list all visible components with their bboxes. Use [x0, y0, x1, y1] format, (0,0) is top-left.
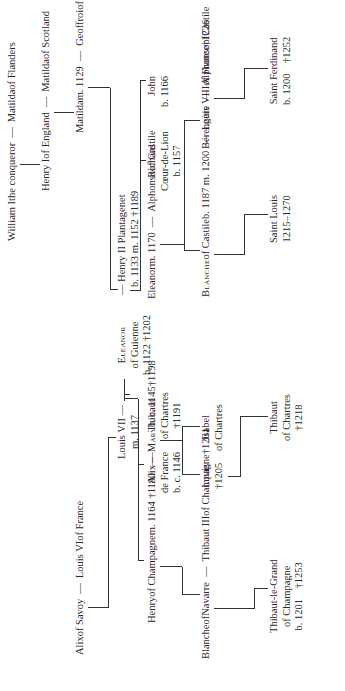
- descent-line: [140, 81, 141, 291]
- person-sub: m. 1137: [129, 405, 142, 459]
- descent-line: [244, 68, 268, 69]
- person-john: John b. 1166: [146, 76, 171, 107]
- person-dates: Navarre: [200, 582, 211, 616]
- person-name: Eleanor: [146, 266, 157, 299]
- person-sub: of Champagne: [281, 560, 294, 633]
- person-isabel-chartres: Isabel of Chartres: [200, 404, 225, 451]
- person-death: †1253: [293, 562, 304, 588]
- person-sub: of: [200, 36, 211, 45]
- person-name: Bérengère: [200, 106, 211, 149]
- person-name: Alphonso: [200, 45, 211, 86]
- descent-line: [130, 290, 140, 291]
- person-sub: of France: [74, 501, 85, 541]
- person-sub: the conqueror: [6, 143, 17, 201]
- person-name: Eleanor: [116, 315, 129, 375]
- descent-line: [182, 567, 183, 595]
- person-dates: Castile: [200, 7, 211, 36]
- person-sub: 1215–1270: [281, 195, 294, 243]
- person-dates: b. 1187 m. 1200: [200, 151, 211, 219]
- couple-alix-louisvi: Alixof Savoy — Louis VIof France: [74, 499, 87, 657]
- person-dates: †1198: [146, 360, 157, 386]
- couple-blanche-thibautiii: BlancheofNavarre — Thibaut IIIof Champag…: [200, 426, 213, 661]
- descent-line: [228, 476, 240, 477]
- person-name: John: [146, 76, 159, 107]
- descent-line: [240, 416, 268, 417]
- descent-line: [254, 589, 255, 609]
- genealogy-chart: William Ithe conqueror — Matildaof Fland…: [0, 0, 345, 691]
- descent-line: [182, 426, 200, 427]
- person-louis-chartres: Louis †1205: [200, 463, 225, 489]
- descent-line: [20, 164, 40, 165]
- descent-line: [138, 399, 139, 561]
- marriage-dash: —: [146, 214, 159, 231]
- person-name: Saint Louis: [268, 195, 281, 243]
- descent-line: [182, 474, 200, 475]
- person-sub: of England: [40, 112, 51, 158]
- couple-henryi-matilda: Henry Iof England — Matildaof Scotland: [40, 9, 53, 193]
- person-name: — Henry II Plantagenet: [116, 191, 129, 295]
- person-sub: of Castile: [200, 219, 211, 260]
- descent-line: [108, 438, 109, 608]
- descent-line: [160, 244, 184, 245]
- person-sub: of Anjou: [74, 0, 85, 10]
- person-sub: de France: [159, 452, 172, 493]
- person-name: Blanche: [200, 260, 211, 298]
- person-name: Geoffroi: [74, 10, 85, 46]
- person-name: Louis VI: [74, 541, 85, 578]
- descent-line: [240, 417, 241, 477]
- person-thibaut-le-grand: Thibaut-le-Grand of Champagne b. 1201 †1…: [268, 560, 306, 633]
- marriage-dash: —: [74, 48, 87, 65]
- person-name: Alix —: [146, 452, 159, 493]
- person-death: †1252: [281, 37, 292, 63]
- person-henry-ii: — Henry II Plantagenet b. 1133 m. 1152 †…: [116, 191, 141, 295]
- person-name: Thibaut III: [200, 516, 211, 562]
- person-richard: Richard Cœur-de-Lion b. 1157: [146, 131, 184, 191]
- descent-line: [182, 427, 183, 475]
- marriage-dash: —: [74, 580, 87, 597]
- marriage-dash: —: [200, 564, 213, 581]
- descent-line: [108, 437, 116, 438]
- person-saint-louis: Saint Louis 1215–1270: [268, 195, 293, 243]
- descent-line: [160, 566, 182, 567]
- person-name: Thibaut-le-Grand: [268, 560, 281, 633]
- person-dates: b. 1157: [171, 131, 184, 191]
- person-name: Blanche: [200, 625, 211, 659]
- descent-line: [138, 464, 144, 465]
- person-sub: m. 1170: [146, 232, 157, 266]
- descent-line: [184, 121, 185, 251]
- couple-berengere-alphonso: Bérengère — AlphonsoofCastile: [200, 5, 213, 151]
- person-sub: of: [200, 616, 211, 625]
- person-name: Louis VII —: [116, 405, 129, 459]
- descent-line: [254, 588, 268, 589]
- person-name: Thibaut: [146, 392, 159, 439]
- person-sub: of Chartres: [281, 394, 294, 441]
- person-name: Alix: [74, 636, 85, 655]
- descent-line: [184, 120, 200, 121]
- descent-line: [110, 88, 111, 290]
- person-sub: m. 1129: [74, 66, 85, 100]
- person-sub: Cœur-de-Lion: [159, 131, 172, 191]
- descent-line: [184, 250, 200, 251]
- couple-matilda-geoffroi: Matildam. 1129 — Geoffroiof Anjou: [74, 0, 87, 135]
- person-sub: †1205: [213, 463, 226, 489]
- person-saint-ferdinand: Saint Ferdinand b. 1200 †1252: [268, 37, 293, 105]
- descent-line: [214, 608, 254, 609]
- person-sub: of Flanders: [6, 42, 17, 90]
- person-sub: of Guienne: [129, 315, 142, 375]
- person-dates: b. 1200: [281, 74, 292, 106]
- person-name: Isabel: [200, 404, 213, 451]
- descent-line: [244, 215, 245, 255]
- person-name: Matilda: [6, 90, 17, 123]
- descent-line: [214, 254, 244, 255]
- descent-line: [244, 69, 245, 99]
- marriage-dash: —: [200, 87, 213, 104]
- marriage-dash: —: [40, 94, 53, 111]
- person-dates: †1218: [293, 394, 306, 441]
- descent-line: [182, 594, 200, 595]
- descent-line: [124, 398, 138, 399]
- descent-line: [214, 98, 244, 99]
- person-name: Thibaut: [268, 394, 281, 441]
- person-sub: of Champagne: [146, 535, 157, 597]
- descent-line: [160, 440, 182, 441]
- person-name: Louis: [200, 463, 213, 489]
